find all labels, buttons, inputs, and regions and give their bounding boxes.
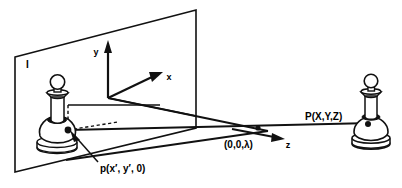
axis-z-label: z [286,140,291,150]
projection-figure: I y x z (0,0,λ) P(X,Y,Z) p(x′, y′, 0) [0,0,402,188]
pawn-right-head [364,74,378,88]
image-plane-label: I [26,59,29,70]
projection-ray-main [68,123,372,130]
focal-point-dot [255,125,260,130]
axis-x-line [108,77,152,98]
image-point-label: p(x′, y′, 0) [100,163,145,174]
axis-z-arrowhead [271,133,285,142]
pawn-right-stem [365,95,377,119]
axis-x-arrowhead [149,72,163,82]
axis-y-arrowhead [104,40,112,53]
plane-ground-edge [108,98,196,116]
axis-x-label: x [166,72,171,82]
axis-y-label: y [93,47,98,57]
pawn-left-head [50,75,64,89]
pawn-left-stem [51,96,64,123]
image-of-pawn [37,75,77,154]
world-point-dot [365,121,371,127]
world-point-label: P(X,Y,Z) [305,111,342,122]
world-pawn [352,74,390,149]
diagram-canvas: I y x z (0,0,λ) P(X,Y,Z) p(x′, y′, 0) [0,0,402,188]
focal-point-label: (0,0,λ) [224,139,253,150]
image-point-dot [65,127,72,134]
